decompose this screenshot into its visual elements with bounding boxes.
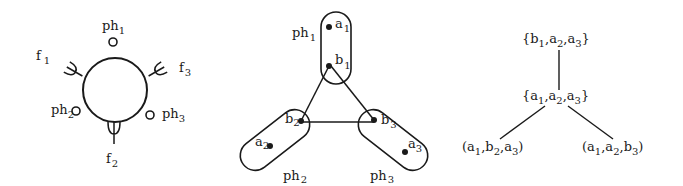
label-a2: a2 (255, 134, 269, 151)
label-b3: b3 (381, 112, 397, 130)
edge-mid-left (500, 106, 545, 139)
label-ph3: ph3 (162, 106, 185, 124)
table-circle (83, 58, 147, 122)
edge-b1-b3 (331, 66, 374, 120)
label-ph2: ph2 (51, 102, 74, 120)
label-b2: b2 (285, 111, 300, 128)
label-f1: f1 (36, 48, 50, 66)
diagram-canvas: ph1 ph2 ph3 f1 f2 f3 a1 b1 b2 a2 b3 a3 p… (0, 0, 683, 186)
point-a1 (326, 24, 332, 30)
edge-b1-b2 (301, 66, 329, 121)
label-group-ph3: ph3 (370, 168, 394, 185)
point-b1 (326, 63, 332, 69)
fork-1-icon (64, 62, 86, 81)
label-f2: f2 (106, 151, 118, 169)
edge-mid-right (568, 106, 613, 139)
tree-node-left: (a1,b2,a3) (462, 139, 523, 157)
fork-2-icon (108, 121, 120, 144)
tree-node-right: (a1,a2,b3) (582, 139, 643, 157)
figure-middle-state-groups: a1 b1 b2 a2 b3 a3 ph1 ph2 ph3 (234, 12, 434, 185)
label-group-ph2: ph2 (283, 168, 307, 185)
fork-3-icon (146, 62, 168, 81)
group-ph3-capsule (352, 104, 434, 177)
philosopher-3-icon (146, 111, 154, 119)
label-b1: b1 (335, 52, 351, 71)
label-ph1: ph1 (102, 18, 125, 36)
philosopher-1-icon (109, 38, 117, 46)
figure-left-dining-table: ph1 ph2 ph3 f1 f2 f3 (36, 18, 191, 169)
point-b3 (371, 117, 377, 123)
tree-node-top: {b1,a2,a3} (522, 31, 590, 49)
label-a3: a3 (408, 136, 422, 154)
label-f3: f3 (179, 60, 191, 78)
tree-node-mid: {a1,a2,a3} (522, 88, 589, 106)
label-group-ph1: ph1 (292, 25, 316, 43)
figure-right-state-tree: {b1,a2,a3} {a1,a2,a3} (a1,b2,a3) (a1,a2,… (462, 31, 643, 157)
